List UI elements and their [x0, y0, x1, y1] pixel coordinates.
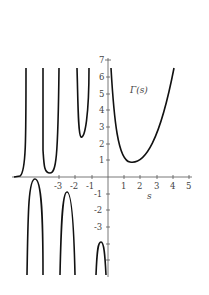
svg-text:3: 3	[154, 181, 159, 191]
gamma-curves	[14, 68, 174, 275]
svg-text:4: 4	[99, 105, 104, 115]
svg-text:1: 1	[99, 155, 104, 165]
svg-text:-2: -2	[70, 181, 78, 191]
gamma-function-chart: -3 -2 -1 1 2 3 4 5 7 6 5 4 3 2 1 -1 -2 -…	[0, 0, 209, 295]
x-axis	[12, 175, 192, 179]
svg-text:5: 5	[186, 181, 191, 191]
x-axis-label: s	[147, 191, 152, 201]
y-axis	[105, 58, 111, 277]
svg-text:-3: -3	[54, 181, 62, 191]
x-tick-labels: -3 -2 -1 1 2 3 4 5	[54, 181, 191, 191]
y-tick-labels: 7 6 5 4 3 2 1 -1 -2 -3	[94, 55, 104, 232]
svg-text:6: 6	[99, 72, 104, 82]
svg-text:4: 4	[170, 181, 175, 191]
svg-text:-3: -3	[94, 222, 102, 232]
svg-text:7: 7	[99, 55, 104, 65]
svg-text:2: 2	[99, 139, 104, 149]
svg-text:5: 5	[99, 89, 104, 99]
curve-label: Γ(s)	[129, 85, 148, 95]
svg-text:3: 3	[99, 122, 104, 132]
svg-text:2: 2	[137, 181, 142, 191]
svg-text:-1: -1	[94, 189, 102, 199]
svg-text:-2: -2	[94, 205, 102, 215]
svg-text:1: 1	[121, 181, 126, 191]
